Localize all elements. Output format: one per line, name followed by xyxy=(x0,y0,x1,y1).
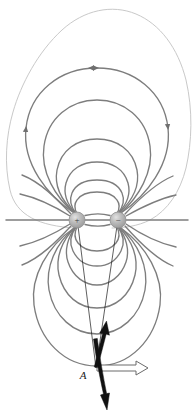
construction-line-plus-to-a xyxy=(78,226,96,368)
field-line-upper-2 xyxy=(43,100,150,213)
charge-negative-sign: − xyxy=(115,215,120,225)
field-line-upper-6 xyxy=(75,192,119,214)
dipole-figure: + − A xyxy=(0,0,194,415)
field-line-lower-3 xyxy=(58,228,136,309)
vector-horizontal-component xyxy=(97,361,148,375)
dipole-field-diagram: + − A xyxy=(0,0,194,415)
upper-field-lines xyxy=(26,68,169,214)
field-line-diag-ul-1 xyxy=(22,175,71,214)
outer-boundary-contour xyxy=(6,9,190,228)
point-a-label: A xyxy=(79,369,87,381)
field-line-between-3 xyxy=(85,225,110,227)
field-line-diag-ll-2 xyxy=(22,226,71,265)
field-line-lower-6 xyxy=(75,227,119,251)
charge-positive: + xyxy=(69,212,85,228)
field-line-upper-5 xyxy=(71,180,124,214)
charge-negative: − xyxy=(110,212,126,228)
field-line-between-1 xyxy=(85,214,110,216)
charge-positive-sign: + xyxy=(74,215,79,225)
between-field-lines xyxy=(85,213,110,226)
